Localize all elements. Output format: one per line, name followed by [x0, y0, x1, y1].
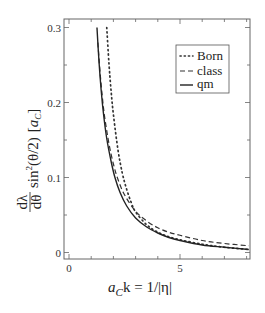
legend: Born class qm [176, 45, 229, 93]
x-tick-label: 5 [177, 262, 183, 274]
y-tick-label: 0 [56, 247, 62, 259]
legend-label-born: Born [197, 48, 224, 63]
y-tick-label: 0.3 [47, 22, 61, 34]
chart: 0500.10.20.3 Born class qm aCk = 1/|η| d… [0, 0, 265, 313]
legend-label-qm: qm [197, 76, 214, 91]
tick-labels: 0500.10.20.3 [47, 22, 183, 275]
y-axis-title: dλ dθ sin2(θ/2)[aC] [14, 109, 44, 212]
y-tick-label: 0.2 [47, 97, 61, 109]
x-tick-label: 0 [66, 262, 72, 274]
svg-text:sin2(θ/2)[aC]: sin2(θ/2)[aC] [24, 109, 43, 188]
y-tick-label: 0.1 [47, 172, 61, 184]
svg-text:dθ: dθ [28, 195, 44, 210]
x-axis-title: aCk = 1/|η| [108, 279, 172, 298]
